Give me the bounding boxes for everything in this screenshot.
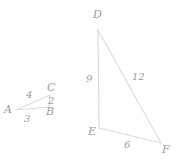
- vertex-label-c: C: [47, 82, 55, 93]
- vertex-label-b: B: [46, 106, 54, 117]
- edge-length-ac: 4: [26, 89, 32, 100]
- vertex-label-f: F: [162, 144, 170, 155]
- triangle-def-shape: [98, 30, 161, 143]
- vertex-label-a: A: [4, 104, 12, 115]
- edge-length-de: 9: [86, 73, 92, 84]
- segment-df: [98, 30, 161, 143]
- edge-length-df: 12: [132, 71, 145, 82]
- triangle-abc-shape: [16, 95, 50, 110]
- vertex-label-d: D: [93, 9, 102, 20]
- edge-length-ef: 6: [124, 139, 130, 150]
- edge-length-cb: 2: [48, 95, 54, 106]
- edge-length-ab: 3: [24, 113, 30, 124]
- segment-de: [98, 30, 99, 128]
- vertex-label-e: E: [88, 126, 96, 137]
- geometry-diagram: A B C 4 2 3 D E F 9 12 6: [0, 0, 177, 163]
